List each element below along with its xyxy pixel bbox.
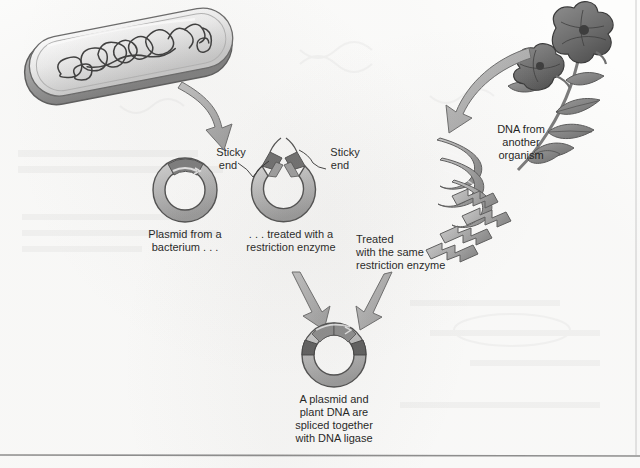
label-recombinant-line4: with DNA ligase	[294, 432, 372, 444]
flower-upper	[552, 2, 613, 64]
label-recombinant-line2: plant DNA are	[300, 406, 368, 418]
arrow-dna-down	[356, 272, 392, 330]
label-foreign-dna-line3: organism	[498, 149, 543, 161]
plasmid-intact	[153, 158, 217, 222]
label-sticky-end-right-line2: end	[331, 159, 349, 171]
label-cut-plasmid-line1: . . . treated with a	[249, 228, 334, 240]
plasmid-recombinant	[302, 323, 366, 387]
label-foreign-dna-line1: DNA from	[497, 123, 545, 135]
label-treated-same-enzyme-line2: with the same	[355, 246, 424, 258]
page-bottom-border	[0, 455, 640, 456]
arrow-plasmid-down	[292, 272, 330, 330]
label-foreign-dna-line2: another	[502, 136, 540, 148]
label-sticky-end-left-line1: Sticky	[216, 146, 246, 158]
label-sticky-end-right-line1: Sticky	[330, 146, 360, 158]
recombinant-dna-figure: Plasmid from a bacterium . . . . . . tre…	[0, 0, 640, 468]
label-treated-same-enzyme-line1: Treated	[356, 233, 394, 245]
plasmid-cut	[252, 138, 316, 222]
bacterium-cell	[18, 3, 239, 110]
label-treated-same-enzyme-line3: restriction enzyme	[356, 259, 445, 271]
diagram-canvas: Plasmid from a bacterium . . . . . . tre…	[0, 0, 640, 468]
label-sticky-end-left-line2: end	[219, 159, 237, 171]
label-plasmid-source-line1: Plasmid from a	[148, 228, 222, 240]
label-cut-plasmid-line2: restriction enzyme	[246, 241, 335, 253]
arrow-bacterium-to-plasmid	[178, 82, 232, 150]
label-recombinant-line3: spliced together	[295, 419, 373, 431]
label-recombinant-line1: A plasmid and	[299, 393, 368, 405]
label-plasmid-source-line2: bacterium . . .	[152, 241, 219, 253]
